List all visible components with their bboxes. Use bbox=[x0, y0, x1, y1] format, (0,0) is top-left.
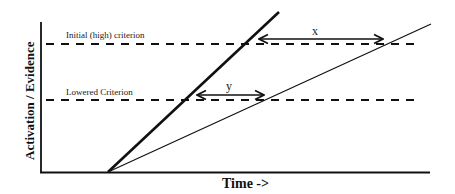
interval-x-label: x bbox=[312, 24, 318, 39]
interval-y-label: y bbox=[226, 79, 232, 94]
lowered-criterion-label: Lowered Criterion bbox=[66, 87, 133, 97]
x-axis-label: Time -> bbox=[222, 176, 269, 192]
initial-criterion-label: Initial (high) criterion bbox=[66, 30, 144, 40]
y-axis-label: Activation / Evidence bbox=[22, 42, 38, 160]
shallow-accumulation-line bbox=[108, 24, 431, 172]
